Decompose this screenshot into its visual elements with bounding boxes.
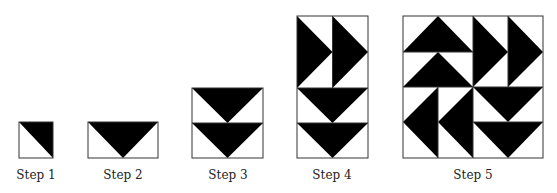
step-1-block — [19, 122, 53, 158]
step-2-label: Step 2 — [83, 168, 163, 182]
step-5-label: Step 5 — [433, 168, 513, 182]
step-3-label: Step 3 — [188, 168, 268, 182]
step-5-block — [403, 16, 543, 158]
step-2-block — [88, 122, 158, 158]
step-1-label: Step 1 — [0, 168, 76, 182]
step-4-label: Step 4 — [292, 168, 372, 182]
quilt-steps-figure — [0, 0, 557, 193]
step-4-block — [297, 16, 368, 158]
step-3-block — [192, 88, 263, 158]
